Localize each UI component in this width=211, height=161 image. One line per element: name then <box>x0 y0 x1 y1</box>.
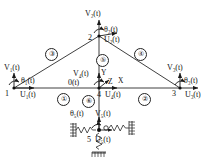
node-2-theta-label: θ₂(t) <box>104 26 118 34</box>
ground-hatch-bottom <box>92 152 106 157</box>
node-1-marker <box>12 86 15 89</box>
axis-x-label: X <box>118 77 123 85</box>
ground-hatch-left <box>70 123 76 137</box>
element-5-badge: ⑤ <box>96 54 109 67</box>
node-1-theta-label: θ₁(t) <box>21 77 35 85</box>
spring-right <box>109 121 129 135</box>
node-4-number: 4 <box>97 91 101 99</box>
element-1-badge: ① <box>57 93 70 106</box>
axis-z-label: Z <box>108 78 113 86</box>
node-3-marker <box>178 86 181 89</box>
node-5-theta-label: θ₅(t) <box>70 110 84 118</box>
node-5-u-label: U₅(t) <box>95 136 111 144</box>
node-3-theta-label: θ₃(t) <box>184 77 198 85</box>
node-2-number: 2 <box>88 34 92 42</box>
node-3-u-label: U₃(t) <box>185 91 201 99</box>
node-5-dof <box>92 117 112 130</box>
element-6-badge: ⑥ <box>82 95 95 108</box>
node-5-number: 5 <box>87 136 91 144</box>
node-4-theta-label: 0(t) <box>68 79 79 87</box>
node-4-v-label: V₄(t) <box>73 70 89 78</box>
node-2-marker <box>97 34 100 37</box>
node-1-v-label: V₁(t) <box>4 64 20 72</box>
node-4-u-label: U₄(t) <box>105 91 121 99</box>
ground-hatch-right <box>129 121 135 135</box>
node-5-rotation-hinge <box>104 126 108 130</box>
structural-diagram: V₁(t) θ₁(t) U₁(t) 1 V₂(t) θ₂(t) U₂(t) 2 … <box>0 0 211 161</box>
node-3-v-label: V₃(t) <box>167 64 183 72</box>
node-5-marker <box>97 128 101 132</box>
element-4-badge: ④ <box>134 48 147 61</box>
node-5-theta-arrow <box>92 124 101 128</box>
node-2-u-label: U₂(t) <box>104 36 120 44</box>
node-1-number: 1 <box>5 90 9 98</box>
node-5-v-label: V₅(t) <box>95 110 111 118</box>
node-2-v-label: V₂(t) <box>85 10 101 18</box>
node-3-number: 3 <box>172 90 176 98</box>
element-3-badge: ③ <box>45 48 58 61</box>
axis-y-label: Y <box>101 69 106 77</box>
node-1-u-label: U₁(t) <box>20 91 36 99</box>
spring-left <box>76 123 96 137</box>
element-2-badge: ② <box>138 93 151 106</box>
